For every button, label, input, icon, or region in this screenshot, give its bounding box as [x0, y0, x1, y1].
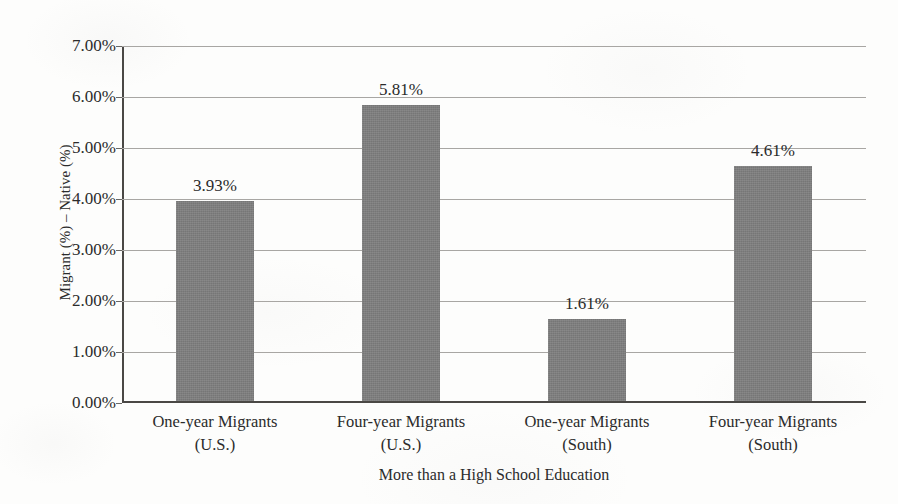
x-axis-title: More than a High School Education: [122, 466, 866, 484]
bar: [176, 201, 254, 401]
y-tick-mark: [116, 301, 122, 302]
y-tick-mark: [116, 46, 122, 47]
gridline: [122, 46, 866, 47]
x-tick-label: One-year Migrants(South): [492, 410, 682, 456]
bar: [362, 105, 440, 401]
y-axis: Migrant (%) – Native (%) 0.00%1.00%2.00%…: [20, 46, 116, 403]
x-tick-label-line: (U.S.): [306, 433, 496, 456]
x-tick-label-line: One-year Migrants: [120, 410, 310, 433]
y-tick-mark: [116, 250, 122, 251]
bar-value-label: 4.61%: [713, 142, 833, 159]
x-axis: One-year Migrants(U.S.)Four-year Migrant…: [122, 410, 866, 462]
x-tick-label-line: One-year Migrants: [492, 410, 682, 433]
plot-area: 3.93%5.81%1.61%4.61%: [122, 46, 866, 403]
x-tick-label-line: (U.S.): [120, 433, 310, 456]
bar-value-label: 3.93%: [155, 177, 275, 194]
bar-value-label: 5.81%: [341, 81, 461, 98]
y-tick-label: 0.00%: [30, 394, 116, 411]
y-tick-mark: [116, 352, 122, 353]
y-tick-label: 1.00%: [30, 343, 116, 360]
bar: [734, 166, 812, 401]
x-tick-label-line: Four-year Migrants: [306, 410, 496, 433]
x-tick-label: One-year Migrants(U.S.): [120, 410, 310, 456]
bar-value-label: 1.61%: [527, 295, 647, 312]
gridline: [122, 97, 866, 98]
x-tick-label-line: (South): [678, 433, 868, 456]
x-axis-line: [122, 401, 866, 403]
y-tick-mark: [116, 97, 122, 98]
y-axis-line: [122, 46, 124, 403]
x-tick-label-line: Four-year Migrants: [678, 410, 868, 433]
y-axis-title: Migrant (%) – Native (%): [57, 73, 74, 373]
y-tick-label: 2.00%: [30, 292, 116, 309]
y-tick-label: 6.00%: [30, 88, 116, 105]
x-tick-label-line: (South): [492, 433, 682, 456]
y-tick-label: 4.00%: [30, 190, 116, 207]
y-tick-label: 7.00%: [30, 37, 116, 54]
chart-figure: Migrant (%) – Native (%) 0.00%1.00%2.00%…: [0, 0, 898, 504]
y-tick-label: 5.00%: [30, 139, 116, 156]
y-tick-mark: [116, 199, 122, 200]
x-tick-label: Four-year Migrants(U.S.): [306, 410, 496, 456]
y-tick-mark: [116, 148, 122, 149]
x-tick-label: Four-year Migrants(South): [678, 410, 868, 456]
y-tick-mark: [116, 403, 122, 404]
y-tick-label: 3.00%: [30, 241, 116, 258]
bar: [548, 319, 626, 401]
